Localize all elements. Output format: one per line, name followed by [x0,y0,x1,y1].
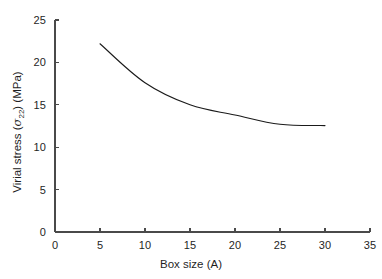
y-axis-title-prefix: Virial stress ( [11,126,23,192]
x-axis-title: Box size (A) [0,258,382,270]
x-tick-label: 15 [184,239,196,251]
x-tick-label: 20 [229,239,241,251]
x-tick-label: 5 [97,239,103,251]
y-axis-title: Virial stress (σ22) (MPa) [10,71,24,192]
data-series-group [100,44,325,126]
y-axis-title-suffix: ) (MPa) [11,71,23,109]
x-tick-label: 30 [319,239,331,251]
x-tick-label: 10 [139,239,151,251]
x-tick-label: 0 [52,239,58,251]
data-line [100,44,325,126]
x-tick-label: 35 [364,239,376,251]
y-axis-title-wrap: Virial stress (σ22) (MPa) [6,0,28,279]
plot-area [0,0,382,279]
sigma-symbol: σ [10,118,24,126]
chart-figure: 0510152025 05101520253035 Box size (A) V… [0,0,382,279]
x-tick-label: 25 [274,239,286,251]
sigma-subscript: 22 [17,109,26,118]
